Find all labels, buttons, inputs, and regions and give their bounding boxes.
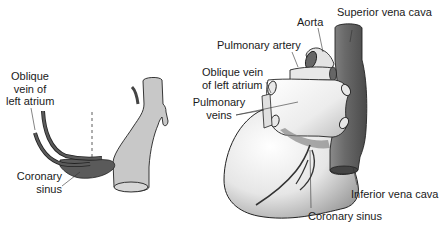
label-pulmonary-veins: Pulmonary veins — [192, 96, 246, 121]
label-oblique-vein-right: Oblique vein of left atrium — [202, 66, 262, 91]
label-coronary-sinus-right: Coronary sinus — [308, 210, 382, 223]
oblique-vein-shape — [43, 111, 102, 159]
label-inferior-vena-cava: Inferior vena cava — [351, 188, 438, 201]
label-superior-vena-cava: Superior vena cava — [337, 6, 432, 19]
left-atrium — [267, 79, 349, 137]
label-oblique-vein-left: Oblique vein of left atrium — [6, 70, 54, 108]
label-pulmonary-artery: Pulmonary artery — [217, 39, 301, 52]
label-coronary-sinus-left: Coronary sinus — [10, 170, 62, 195]
vena-cava-tube — [113, 77, 168, 191]
label-aorta: Aorta — [297, 16, 323, 29]
coronary-sinus-shape — [60, 159, 115, 178]
